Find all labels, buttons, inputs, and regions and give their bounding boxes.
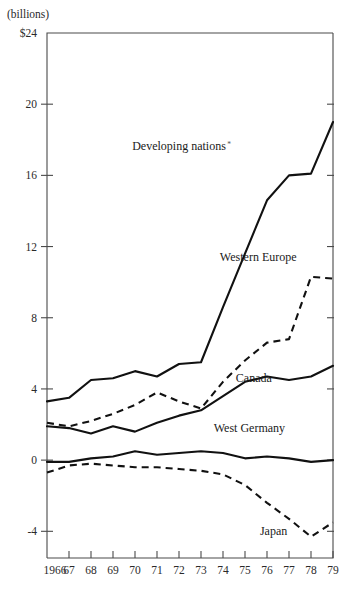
y-axis-tick-label: $24 bbox=[20, 27, 38, 39]
series-line-canada bbox=[47, 366, 333, 434]
x-axis-tick-label: 67 bbox=[63, 564, 75, 576]
x-axis-tick-label: 72 bbox=[173, 564, 185, 576]
series-label-japan: Japan bbox=[260, 524, 287, 538]
series-annotation-labels: Developing nations*Western EuropeCanadaW… bbox=[132, 139, 296, 537]
series-paths-group bbox=[47, 122, 333, 537]
y-axis-ticks bbox=[41, 104, 334, 531]
x-axis-ticks bbox=[69, 551, 333, 558]
x-axis-tick-label: 79 bbox=[327, 564, 339, 576]
series-line-japan bbox=[47, 464, 333, 537]
series-line-west-germany bbox=[47, 451, 333, 462]
series-label-west-germany: West Germany bbox=[214, 421, 285, 435]
series-label-developing-nations: Developing nations bbox=[132, 139, 226, 153]
axes-group bbox=[41, 33, 334, 558]
y-axis-tick-label: 16 bbox=[26, 169, 38, 181]
y-axis-tick-label: 12 bbox=[26, 241, 38, 253]
series-label-canada: Canada bbox=[236, 371, 273, 385]
series-line-western-europe bbox=[47, 277, 333, 427]
y-axis-tick-label: 4 bbox=[31, 383, 37, 395]
x-axis-tick-label: 76 bbox=[261, 564, 273, 576]
y-axis-tick-label: 8 bbox=[31, 312, 37, 324]
x-axis-tick-label: 71 bbox=[151, 564, 163, 576]
y-axis-tick-label: 20 bbox=[26, 98, 38, 110]
y-axis-tick-label: 0 bbox=[31, 454, 37, 466]
x-axis-tick-label: 78 bbox=[305, 564, 317, 576]
series-label-western-europe: Western Europe bbox=[220, 250, 297, 264]
x-axis-tick-label: 73 bbox=[195, 564, 207, 576]
y-axis-tick-label: -4 bbox=[27, 525, 37, 537]
footnote-asterisk: * bbox=[227, 140, 231, 149]
x-axis-tick-labels: 196667686970717273747576777879 bbox=[44, 564, 340, 576]
axis-frame bbox=[47, 33, 333, 558]
line-chart: $24201612840-4 1966676869707172737475767… bbox=[0, 0, 344, 598]
x-axis-tick-label: 70 bbox=[129, 564, 141, 576]
chart-container: $24201612840-4 1966676869707172737475767… bbox=[0, 0, 344, 598]
y-axis-tick-labels: $24201612840-4 bbox=[20, 27, 38, 537]
x-axis-tick-label: 69 bbox=[107, 564, 119, 576]
x-axis-tick-label: 74 bbox=[217, 564, 229, 576]
y-axis-unit-label: (billions) bbox=[7, 8, 49, 21]
x-axis-tick-label: 68 bbox=[85, 564, 97, 576]
x-axis-tick-label: 75 bbox=[239, 564, 251, 576]
x-axis-tick-label: 77 bbox=[283, 564, 295, 576]
